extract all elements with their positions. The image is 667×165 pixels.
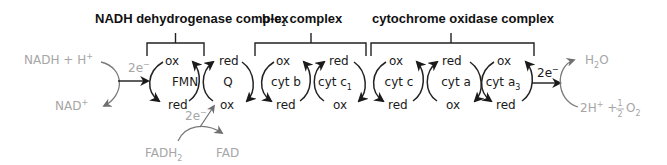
fmn-ox-state: ox	[165, 54, 179, 68]
cyt-a-red-state: red	[442, 54, 462, 68]
carrier-cyt-c1: red cyt c1 ox	[314, 54, 365, 112]
carrier-cyt-c: ox cyt c red	[374, 54, 424, 112]
oxygen-reduction-arc	[560, 60, 578, 107]
svg-text:O2: O2	[626, 101, 641, 118]
bracket-nadh-dehydrogenase	[147, 33, 204, 56]
complex-title-cytochrome-oxidase: cytochrome oxidase complex	[372, 11, 555, 26]
cyt-c-ox-state: ox	[389, 54, 403, 68]
water-label: H2O	[585, 53, 609, 70]
q-red-state: red	[219, 54, 239, 68]
cyt-a3-label: cyt a3	[486, 75, 521, 92]
cyt-c1-red-state: red	[329, 54, 349, 68]
cyt-b-ox-state: ox	[276, 54, 290, 68]
complex-title-nadh-dehydrogenase: NADH dehydrogenase complex	[95, 11, 289, 26]
svg-text:1: 1	[617, 99, 622, 108]
cyt-c1-ox-state: ox	[333, 98, 347, 112]
electron-label-nadh: 2e−	[128, 60, 150, 75]
bracket-bc1	[255, 33, 366, 56]
electron-label-output: 2e−	[537, 65, 559, 80]
cyt-b-red-state: red	[276, 98, 296, 112]
cyt-a-ox-state: ox	[446, 98, 460, 112]
cyt-a3-red-state: red	[496, 98, 516, 112]
fadh2-label: FADH2	[145, 146, 182, 163]
carrier-q: red Q ox	[203, 54, 253, 112]
cyt-c1-label: cyt c1	[318, 75, 352, 92]
svg-text:2: 2	[617, 110, 622, 119]
nadh-oxidation-arc	[101, 62, 119, 106]
cyt-b-label: cyt b	[271, 75, 301, 89]
fmn-label: FMN	[172, 75, 198, 89]
complex-title-bc1: b-c1 complex	[262, 11, 343, 28]
carrier-cyt-b: ox cyt b red	[262, 54, 311, 112]
nadh-label: NADH + H+	[24, 52, 93, 67]
fad-label: FAD	[216, 146, 239, 160]
cyt-c-label: cyt c	[385, 75, 414, 89]
carrier-cyt-a: red cyt a ox	[427, 54, 481, 112]
electron-transport-chain-diagram: NADH dehydrogenase complex b-c1 complex …	[0, 0, 667, 165]
oxygen-label: 2H+ + 1 2 O2	[580, 99, 641, 119]
cyt-a-label: cyt a	[441, 75, 471, 89]
carrier-fmn: ox FMN red	[150, 54, 200, 112]
bracket-cytochrome-oxidase	[371, 33, 534, 56]
q-ox-state: ox	[220, 98, 234, 112]
svg-text:2H+ +: 2H+ +	[580, 100, 617, 115]
carrier-cyt-a3: ox cyt a3 red	[482, 54, 533, 112]
cyt-a3-ox-state: ox	[497, 54, 511, 68]
fadh2-oxidation-arc	[178, 126, 222, 141]
cyt-c-red-state: red	[388, 98, 408, 112]
nad-label: NAD+	[55, 98, 88, 113]
q-label: Q	[223, 75, 232, 89]
